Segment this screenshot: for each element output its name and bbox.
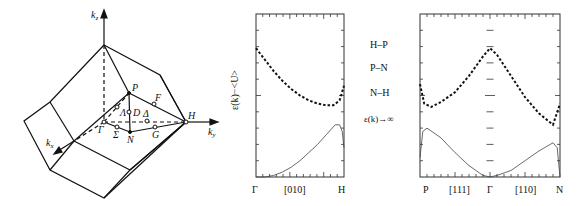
lower-band-solid — [420, 128, 560, 177]
xtick-010: [010] — [284, 184, 306, 195]
kz-axis — [101, 10, 107, 45]
label-D: D — [132, 107, 141, 118]
label-G: G — [152, 129, 159, 140]
xtick-n: N — [556, 184, 563, 195]
label-N: N — [126, 134, 135, 145]
p-marker — [128, 92, 131, 95]
label-Delta: Δ — [142, 108, 149, 119]
xtick-gamma: Γ — [252, 184, 258, 195]
lower-band-solid — [256, 125, 344, 177]
label-Lambda: Λ — [119, 107, 126, 118]
figure-canvas: kz ky kx P F Λ D Δ H Γ Σ N G ε(k)−<U> Γ … — [0, 0, 584, 206]
lambda-marker — [115, 105, 119, 109]
plot-p-gamma-n — [420, 14, 560, 177]
label-Sigma: Σ — [112, 129, 119, 140]
label-H: H — [187, 110, 196, 121]
kx-label: kx — [46, 137, 54, 150]
legend-item-k-infinity: ε(k)→∞ — [364, 114, 394, 124]
xtick-h: H — [338, 184, 345, 195]
upper-band-dashed — [256, 48, 344, 105]
legend-item-n-h: N–H — [370, 87, 389, 98]
d-marker — [127, 110, 131, 114]
legend-item-p-n: P–N — [370, 62, 388, 73]
tick-marks — [420, 14, 560, 177]
xtick-110: [110] — [515, 184, 536, 195]
y-axis-label: ε(k)−<U> — [229, 70, 241, 110]
kx-axis — [54, 141, 74, 154]
label-F: F — [154, 92, 162, 103]
delta-marker — [145, 119, 149, 123]
legend-item-h-p: H–P — [370, 39, 388, 50]
legend: H–P P–N N–H ε(k)→∞ — [364, 39, 394, 124]
xtick-p: P — [423, 184, 429, 195]
plot-gamma-h — [256, 14, 344, 177]
xtick-111: [111] — [449, 184, 470, 195]
label-Gamma: Γ — [97, 124, 104, 135]
kz-label: kz — [91, 9, 98, 22]
upper-band-dashed — [420, 48, 560, 125]
label-P: P — [131, 82, 138, 93]
xtick-gamma: Γ — [487, 184, 493, 195]
ky-label: ky — [208, 126, 216, 139]
